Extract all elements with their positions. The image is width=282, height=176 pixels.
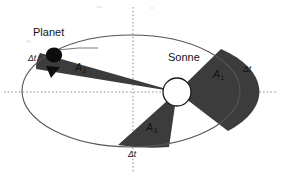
orbit-arc-highlight (58, 48, 98, 50)
area-a3-symbol: A (146, 121, 153, 133)
area-a2-symbol: A (75, 61, 82, 73)
delta-t-right-label: Δt (243, 65, 251, 74)
area-a3-index: 3 (154, 127, 158, 134)
delta-t-bottom-label: Δt (128, 150, 136, 159)
planet-circle (46, 48, 62, 63)
scan-speck (26, 40, 31, 43)
sun-circle (163, 78, 191, 106)
area-a1-symbol: A (213, 68, 220, 80)
sun-label: Sonne (168, 52, 200, 63)
delta-t-left-label: Δt (28, 54, 36, 63)
kepler-second-law-figure: Planet Sonne Δt Δt Δt A1 A2 A3 (0, 0, 282, 176)
area-a1-label: A1 (213, 69, 224, 80)
scan-speck (150, 7, 154, 9)
area-a2-index: 2 (83, 67, 87, 74)
area-a2-label: A2 (75, 62, 86, 73)
planet-label: Planet (33, 27, 64, 38)
scan-speck (96, 6, 103, 8)
area-a3-label: A3 (146, 122, 157, 133)
area-a1-index: 1 (221, 74, 225, 81)
